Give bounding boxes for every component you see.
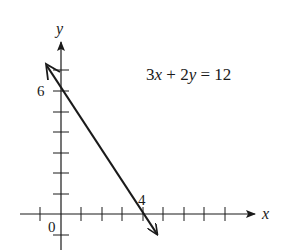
y-axis-label: y: [54, 20, 64, 38]
equation-text: 3x + 2y = 12: [146, 65, 231, 84]
origin-label: 0: [48, 219, 56, 235]
x-axis-label: x: [261, 205, 269, 222]
y-tick-label-6: 6: [37, 83, 45, 99]
equation-label: 3x + 2y = 12: [146, 65, 231, 84]
x-tick-label-4: 4: [138, 192, 146, 208]
line-graph: y x 6 4 0 3x + 2y = 12: [0, 0, 282, 250]
